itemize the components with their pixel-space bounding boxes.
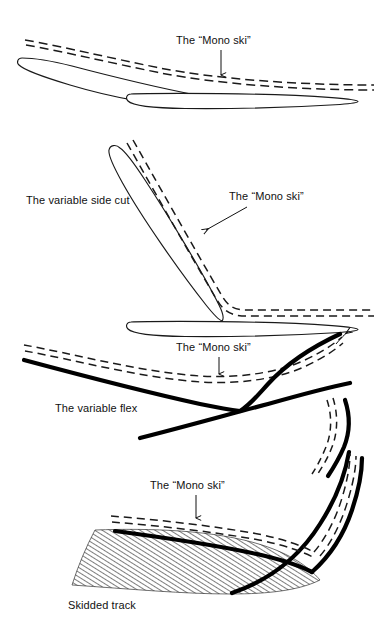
mono-ski-4-label: The “Mono ski” xyxy=(150,479,225,491)
annotation-mono-ski-2: The “Mono ski” xyxy=(206,190,304,230)
skidded-track-label: Skidded track xyxy=(68,599,136,611)
figure-canvas: The “Mono ski” The variable side cut The… xyxy=(0,0,378,642)
panel-skidded-track: The “Mono ski” Skidded track xyxy=(68,452,362,611)
flex-line-lower xyxy=(140,383,350,438)
annotation-mono-ski-4: The “Mono ski” xyxy=(150,479,225,518)
mono-ski-2-arrow xyxy=(206,207,247,230)
annotation-mono-ski-3: The “Mono ski” xyxy=(176,341,251,374)
mono-ski-3-label: The “Mono ski” xyxy=(176,341,251,353)
ski-technique-figure: The “Mono ski” The variable side cut The… xyxy=(0,0,378,642)
variable-side-cut-label: The variable side cut xyxy=(26,194,130,206)
mono-ski-2-label: The “Mono ski” xyxy=(229,190,304,202)
horizontal-ski-outline-2 xyxy=(127,321,358,336)
variable-flex-label: The variable flex xyxy=(55,402,138,414)
lower-ski-outline xyxy=(127,93,358,108)
panel-variable-flex: The “Mono ski” The variable flex xyxy=(24,332,350,476)
mono-ski-1-label: The “Mono ski” xyxy=(176,34,251,46)
annotation-mono-ski-1: The “Mono ski” xyxy=(176,34,251,75)
detached-tip-dash-b xyxy=(312,400,331,474)
ski-edge-thick-right xyxy=(312,458,362,572)
panel-crossover: The “Mono ski” xyxy=(18,34,374,109)
tilted-ski-outline xyxy=(109,146,223,321)
panel-side-cut: The variable side cut The “Mono ski” xyxy=(26,140,374,337)
